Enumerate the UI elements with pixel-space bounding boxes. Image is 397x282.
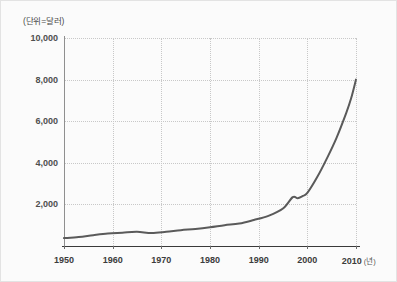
y-tick-label-4000: 4,000: [35, 158, 58, 168]
x-tick-mark-1950: [64, 246, 65, 249]
plot-area: 10,0008,0006,0004,0002,000 1950196019701…: [64, 38, 356, 246]
x-tick-label-2000: 2000: [297, 255, 317, 265]
x-tick-label-1990: 1990: [249, 255, 269, 265]
y-tick-label-6000: 6,000: [35, 116, 58, 126]
x-tick-mark-1960: [113, 246, 114, 249]
x-tick-label-1960: 1960: [103, 255, 123, 265]
x-tick-label-1980: 1980: [200, 255, 220, 265]
x-tick-mark-2010: [356, 246, 357, 249]
y-axis-unit-label: (단위=달러): [23, 14, 64, 26]
x-tick-label-2010: 2010 (년): [342, 255, 376, 266]
x-axis-unit-label: (년): [362, 257, 376, 266]
x-tick-mark-1990: [259, 246, 260, 249]
chart-figure: (단위=달러) 10,0008,0006,0004,0002,000 19501…: [0, 0, 397, 282]
gridline-v-2010: [356, 38, 357, 246]
y-tick-label-8000: 8,000: [35, 75, 58, 85]
x-tick-label-1970: 1970: [151, 255, 171, 265]
x-tick-label-1950: 1950: [54, 255, 74, 265]
x-tick-mark-2000: [307, 246, 308, 249]
data-series-line: [64, 38, 356, 246]
y-tick-label-10000: 10,000: [30, 33, 58, 43]
x-tick-mark-1970: [161, 246, 162, 249]
y-tick-label-2000: 2,000: [35, 199, 58, 209]
x-tick-mark-1980: [210, 246, 211, 249]
x-axis-line: [62, 246, 360, 247]
